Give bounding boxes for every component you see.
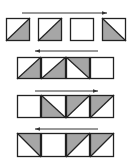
arrow-right-icon [22,11,107,15]
arrow-left-icon [35,49,98,53]
cell-lower-right [17,57,41,79]
cell-upper-left [90,95,114,118]
triangle-tiling-diagram [0,0,128,165]
cell-upper-right [17,133,41,157]
arrow-right-icon [35,89,98,93]
row-3 [18,89,115,118]
row-2 [17,49,114,79]
cell-upper-left [90,133,114,157]
arrow-left-icon [35,127,98,131]
row-4 [17,127,114,157]
cell-lower-right [38,18,62,41]
cell-lower-left [41,95,66,118]
cell-lower-left [102,18,126,41]
cell-upper-right [66,57,90,79]
cell-empty [91,58,114,79]
cell-lower-right [41,57,66,79]
cell-lower-right [6,18,30,41]
cell-empty [42,134,66,157]
cell-empty [71,19,94,41]
cell-upper-left [66,133,90,157]
cell-empty [18,96,41,118]
cell-upper-left [66,95,90,118]
row-1 [6,11,126,41]
